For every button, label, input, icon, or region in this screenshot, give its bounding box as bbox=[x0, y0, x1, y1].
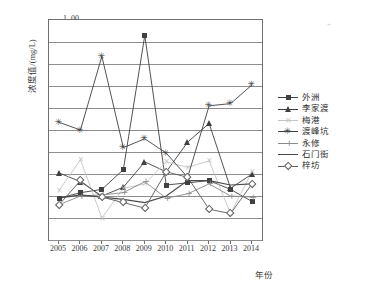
x-tick-mark bbox=[58, 241, 59, 244]
x-marker-icon: × bbox=[163, 159, 170, 164]
x-marker-icon: × bbox=[185, 165, 192, 170]
triangle-marker-icon bbox=[56, 170, 62, 176]
series-line bbox=[59, 182, 252, 205]
legend-marker bbox=[277, 104, 299, 115]
x-tick-mark bbox=[187, 241, 188, 244]
asterisk-marker-icon: ✳ bbox=[140, 136, 148, 141]
x-marker-icon: × bbox=[56, 188, 63, 193]
legend-marker bbox=[277, 161, 299, 172]
legend-item[interactable]: 李家渡 bbox=[277, 103, 373, 114]
x-tick-mark bbox=[208, 241, 209, 244]
series-line bbox=[59, 123, 252, 196]
plus-marker-icon: + bbox=[78, 194, 86, 199]
legend-label: 梓坊 bbox=[299, 160, 320, 171]
plus-marker-icon: + bbox=[286, 141, 294, 146]
x-tick-mark bbox=[144, 241, 145, 244]
gridline bbox=[49, 240, 262, 241]
x-tick-mark bbox=[122, 241, 123, 244]
legend-label: 李家渡 bbox=[299, 103, 329, 114]
series-line bbox=[59, 35, 252, 201]
x-tick-label: 2014 bbox=[234, 244, 268, 253]
series-line bbox=[59, 56, 252, 177]
triangle-marker-icon bbox=[206, 120, 212, 126]
plus-marker-icon: + bbox=[142, 179, 150, 184]
plus-marker-icon: + bbox=[228, 194, 236, 199]
legend-item[interactable]: 外洲 bbox=[277, 92, 373, 103]
x-tick-mark bbox=[79, 241, 80, 244]
line-chart: 浓度值/(mg/L) 年份 1. 000. 900. 800. 700. 600… bbox=[0, 0, 375, 288]
plus-marker-icon: + bbox=[185, 191, 193, 196]
legend-item[interactable]: 石门街 bbox=[277, 149, 373, 160]
plus-marker-icon: + bbox=[207, 181, 215, 186]
triangle-marker-icon bbox=[141, 159, 147, 165]
legend-item[interactable]: ×梅港 bbox=[277, 115, 373, 126]
legend-item[interactable]: +永修 bbox=[277, 138, 373, 149]
triangle-marker-icon bbox=[184, 139, 190, 145]
legend-marker: ✳ bbox=[277, 126, 299, 137]
plus-marker-icon: + bbox=[250, 195, 258, 200]
legend-item[interactable]: ✳渡峰坑 bbox=[277, 126, 373, 137]
legend-label: 永修 bbox=[299, 138, 320, 149]
asterisk-marker-icon: ✳ bbox=[119, 145, 127, 150]
plus-marker-icon: + bbox=[121, 190, 129, 195]
square-marker-icon bbox=[142, 33, 147, 38]
legend-label: 梅港 bbox=[299, 115, 320, 126]
asterisk-marker-icon: ✳ bbox=[55, 120, 63, 125]
asterisk-marker-icon: ✳ bbox=[76, 128, 84, 133]
legend-label: 外洲 bbox=[299, 92, 320, 103]
asterisk-marker-icon: ✳ bbox=[97, 54, 105, 59]
triangle-marker-icon bbox=[285, 106, 291, 112]
legend: 外洲李家渡×梅港✳渡峰坑+永修石门街梓坊 bbox=[277, 92, 373, 172]
x-marker-icon: × bbox=[206, 158, 213, 163]
stray-speck-icon: + bbox=[327, 21, 331, 29]
series-line bbox=[59, 172, 252, 214]
x-tick-mark bbox=[101, 241, 102, 244]
x-tick-mark bbox=[165, 241, 166, 244]
asterisk-marker-icon: ✳ bbox=[226, 101, 234, 106]
asterisk-marker-icon: ✳ bbox=[284, 129, 292, 134]
x-marker-icon: × bbox=[99, 216, 106, 221]
square-marker-icon bbox=[121, 167, 126, 172]
asterisk-marker-icon: ✳ bbox=[248, 82, 256, 87]
legend-marker: × bbox=[277, 115, 299, 126]
square-marker-icon bbox=[286, 95, 291, 100]
x-marker-icon: × bbox=[77, 157, 84, 162]
square-marker-icon bbox=[164, 183, 169, 188]
legend-marker: + bbox=[277, 138, 299, 149]
plot-area: ××××××××××✳✳✳✳✳✳✳✳✳✳++++++++++ bbox=[48, 19, 263, 241]
legend-marker bbox=[277, 92, 299, 103]
x-axis-title: 年份 bbox=[255, 268, 273, 280]
series-line bbox=[59, 160, 252, 218]
legend-label: 渡峰坑 bbox=[299, 126, 329, 137]
legend-marker bbox=[277, 149, 299, 160]
legend-label: 石门街 bbox=[299, 149, 329, 160]
x-tick-mark bbox=[230, 241, 231, 244]
asterisk-marker-icon: ✳ bbox=[205, 103, 213, 108]
diamond-marker-icon bbox=[283, 162, 292, 171]
x-tick-mark bbox=[251, 241, 252, 244]
x-marker-icon: × bbox=[249, 169, 256, 174]
plus-marker-icon: + bbox=[164, 196, 172, 201]
x-marker-icon: × bbox=[285, 118, 292, 123]
legend-item[interactable]: 梓坊 bbox=[277, 160, 373, 171]
asterisk-marker-icon: ✳ bbox=[162, 151, 170, 156]
legend-line-icon bbox=[278, 154, 298, 155]
